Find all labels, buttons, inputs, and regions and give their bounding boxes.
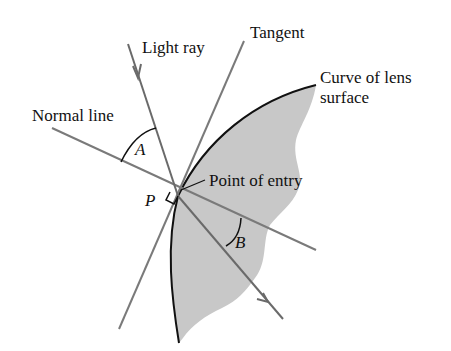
light-ray-incident — [128, 44, 178, 196]
normal-line-label: Normal line — [32, 106, 114, 125]
angle-a-label: A — [134, 140, 146, 159]
light-ray-label: Light ray — [142, 38, 205, 57]
curve-label-line1: Curve of lens — [320, 68, 412, 87]
diagram-canvas: Light ray Tangent Curve of lens surface … — [0, 0, 451, 351]
refraction-diagram: Light ray Tangent Curve of lens surface … — [0, 0, 451, 351]
point-p-label: P — [144, 191, 155, 210]
tangent-label: Tangent — [250, 23, 305, 42]
point-of-entry-label: Point of entry — [209, 171, 303, 190]
angle-b-label: B — [235, 233, 246, 252]
curve-label-line2: surface — [320, 88, 369, 107]
